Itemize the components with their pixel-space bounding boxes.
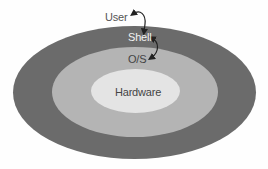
- ellipse-layers: [0, 0, 268, 169]
- shell-label: Shell: [128, 31, 151, 43]
- os-layers-diagram: User Shell O/S Hardware: [0, 0, 268, 169]
- user-label: User: [105, 11, 127, 23]
- hardware-label: Hardware: [115, 86, 161, 98]
- os-label: O/S: [128, 53, 146, 65]
